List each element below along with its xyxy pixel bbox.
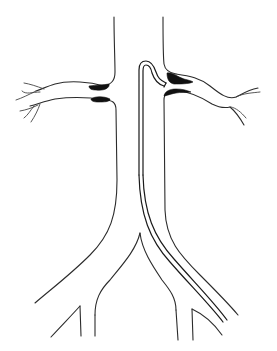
aorta-renal-diagram [0, 0, 277, 351]
iliac-crotch-right [140, 233, 176, 310]
left-internal-iliac-inner [80, 306, 81, 336]
right-ostial-plaque-lower [164, 89, 191, 96]
catheter-lower-inner [143, 175, 227, 320]
aorta-right-wall-lower [164, 90, 238, 315]
right-external-iliac-inner [176, 310, 178, 340]
left-renal-branch-6 [31, 104, 40, 122]
left-internal-iliac-outer [51, 306, 80, 337]
aorta-left-wall-lower [35, 100, 117, 303]
left-renal-branch-2 [22, 91, 40, 93]
left-renal-branch-4 [20, 105, 38, 111]
left-renal-branch-1 [24, 83, 44, 89]
left-renal-branch-5 [24, 106, 34, 118]
aorta-right-wall-upper [163, 17, 176, 74]
left-ostial-plaque-lower [91, 97, 110, 102]
catheter-tip [164, 83, 166, 87]
iliac-crotch-left [95, 233, 140, 315]
left-ostial-plaque-upper [89, 84, 109, 90]
catheter-inner [143, 65, 164, 175]
aorta-left-wall-upper [104, 17, 115, 86]
right-internal-iliac-outer [192, 309, 222, 335]
right-internal-iliac-inner [192, 309, 193, 340]
